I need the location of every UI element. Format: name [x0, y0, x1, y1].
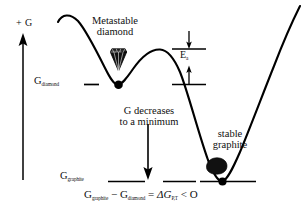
metastable-line-2: diamond — [97, 26, 134, 37]
graphite-blob-icon — [206, 158, 227, 175]
g-diamond-subscript: diamond — [42, 81, 59, 87]
graphite-minimum-marker — [218, 177, 226, 185]
g-diamond-base: G — [34, 75, 42, 86]
activation-energy-group — [172, 31, 206, 85]
g-graphite-subscript: graphite — [68, 176, 84, 182]
eq-term2-subscript: diamond — [128, 195, 145, 201]
eq-equals: = — [148, 188, 154, 200]
diamond-minimum-marker — [114, 80, 123, 89]
g-decreases-label: G decreases to a minimum — [105, 105, 193, 128]
g-decrease-arrow-icon — [143, 124, 152, 180]
eq-delta-base: ΔG — [157, 188, 171, 200]
axis-label-plus-g: + G — [16, 18, 33, 29]
g-decreases-line-1: G decreases — [124, 105, 174, 116]
diamond-gem-icon — [110, 49, 126, 71]
activation-energy-label: Ea — [180, 50, 188, 61]
free-energy-equation: Ggraphite − Gdiamond = ΔGP,T < O — [84, 189, 198, 201]
ea-down-arrow-icon — [186, 31, 192, 49]
stable-graphite-label: stable graphite — [200, 128, 260, 151]
metastable-diamond-label: Metastable diamond — [79, 15, 151, 38]
stable-line-1: stable — [218, 128, 243, 139]
eq-term1-subscript: graphite — [92, 195, 108, 201]
g-graphite-label: Ggraphite — [60, 170, 84, 181]
eq-result: O — [190, 188, 198, 200]
ea-up-arrow-icon — [186, 66, 191, 85]
eq-term2-base: G — [120, 188, 128, 200]
g-axis-group — [19, 33, 28, 180]
eq-minus: − — [111, 188, 117, 200]
eq-delta-subscript: P,T — [171, 195, 177, 201]
g-diamond-label: Gdiamond — [34, 75, 59, 86]
eq-term1-base: G — [84, 188, 92, 200]
g-decreases-line-2: to a minimum — [120, 116, 179, 127]
eq-less-than: < — [181, 188, 187, 200]
ea-subscript: a — [186, 55, 188, 61]
metastable-line-1: Metastable — [92, 15, 138, 26]
stable-line-2: graphite — [213, 139, 247, 150]
g-graphite-base: G — [60, 170, 68, 181]
